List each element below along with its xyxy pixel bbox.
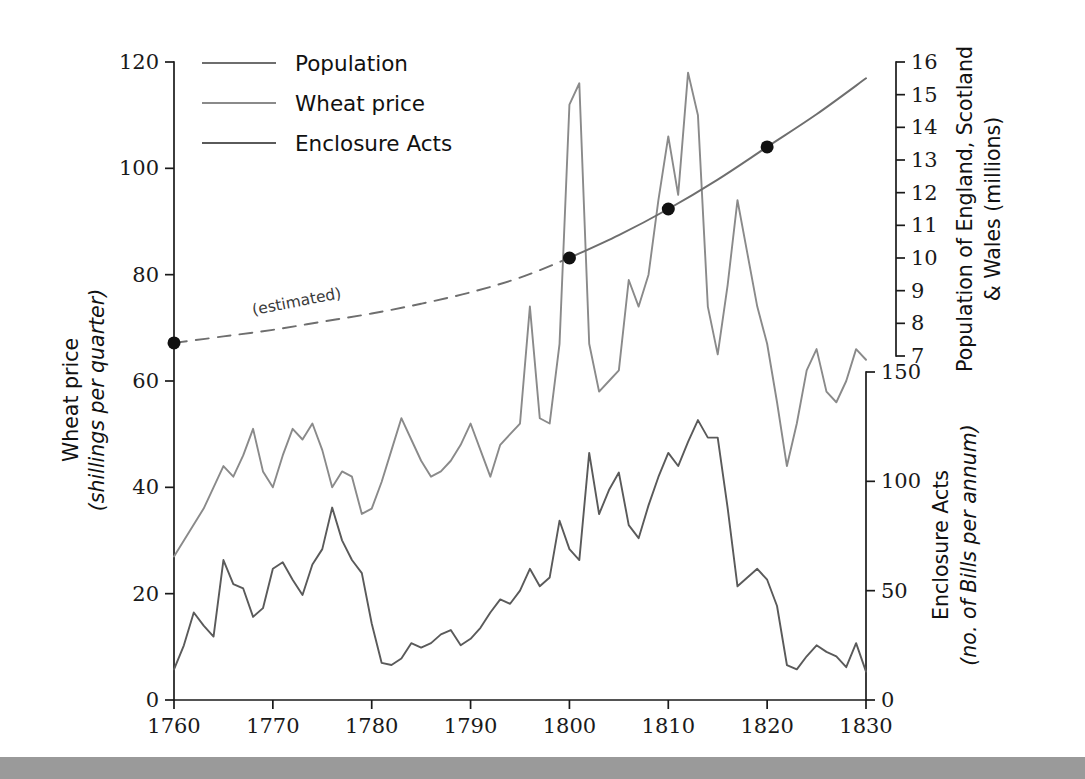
y-axis-right-lower-tick-label: 150 (881, 360, 921, 384)
y-axis-right-upper-title-line1: Population of England, Scotland (953, 46, 977, 372)
y-axis-left-tick-label: 60 (132, 369, 159, 393)
y-axis-right-lower-tick-label: 100 (881, 469, 921, 493)
x-axis-tick-label: 1800 (543, 714, 596, 738)
x-axis-tick-label: 1760 (147, 714, 200, 738)
y-axis-left-tick-label: 40 (132, 475, 159, 499)
x-axis-tick-label: 1780 (345, 714, 398, 738)
y-axis-right-upper-tick-label: 10 (911, 246, 938, 270)
x-axis-tick-label: 1830 (839, 714, 892, 738)
y-axis-right-upper-tick-label: 11 (911, 213, 938, 237)
y-axis-left-title-line2: (shillings per quarter) (85, 289, 109, 511)
y-axis-right-lower-title-line1: Enclosure Acts (929, 470, 953, 620)
x-axis-tick-label: 1810 (642, 714, 695, 738)
population-data-point (662, 203, 675, 216)
y-axis-right-upper-tick-label: 9 (911, 279, 924, 303)
y-axis-right-upper-tick-label: 13 (911, 148, 938, 172)
legend-label-2: Wheat price (295, 91, 425, 116)
legend-label-3: Enclosure Acts (295, 131, 452, 156)
y-axis-right-upper-tick-label: 8 (911, 311, 924, 335)
y-axis-right-lower-tick-label: 50 (881, 579, 908, 603)
y-axis-right-lower-tick-label: 0 (881, 688, 894, 712)
bottom-gray-bar (0, 757, 1085, 779)
y-axis-right-lower-title-line2: (no. of Bills per annum) (957, 424, 981, 665)
y-axis-right-upper-title-line2: & Wales (millions) (981, 117, 1005, 302)
population-data-point (168, 336, 181, 349)
population-data-point (563, 252, 576, 265)
y-axis-right-upper-tick-label: 14 (911, 115, 938, 139)
legend-label-1: Population (295, 51, 408, 76)
y-axis-right-upper-tick-label: 12 (911, 181, 938, 205)
x-axis-tick-label: 1820 (740, 714, 793, 738)
x-axis-tick-label: 1770 (246, 714, 299, 738)
x-axis-tick-label: 1790 (444, 714, 497, 738)
chart-canvas: 020406080100120 Wheat price (shillings p… (0, 0, 1085, 779)
y-axis-left-tick-label: 100 (119, 156, 159, 180)
y-axis-left-title-line1: Wheat price (59, 338, 83, 462)
y-axis-left-tick-label: 0 (146, 688, 159, 712)
y-axis-left-tick-label: 120 (119, 50, 159, 74)
y-axis-left-tick-label: 20 (132, 582, 159, 606)
y-axis-right-upper-tick-label: 15 (911, 83, 938, 107)
y-axis-left-tick-label: 80 (132, 263, 159, 287)
chart-figure: 020406080100120 Wheat price (shillings p… (0, 0, 1085, 779)
population-data-point (761, 140, 774, 153)
y-axis-right-upper-tick-label: 16 (911, 50, 938, 74)
